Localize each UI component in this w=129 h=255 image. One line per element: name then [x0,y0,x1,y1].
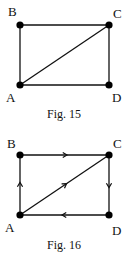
node-D [105,211,112,218]
node-label-A: A [5,220,15,235]
node-label-A: A [6,90,16,105]
node-B [16,21,23,28]
edge-AC [20,155,109,215]
graph-figures: BCADFig. 15BCADFig. 16 [0,0,129,255]
node-label-C: C [113,6,122,21]
node-B [16,151,23,158]
figure-15: BCADFig. 15 [6,4,122,121]
node-label-B: B [8,4,17,19]
node-A [16,211,23,218]
node-C [105,21,112,28]
node-label-C: C [113,136,122,151]
node-label-D: D [112,90,121,105]
node-D [105,81,112,88]
figure-caption: Fig. 16 [47,238,81,252]
node-C [105,151,112,158]
figure-16: BCADFig. 16 [5,136,122,252]
edge-AC [20,25,109,85]
figure-caption: Fig. 15 [47,107,81,121]
node-label-B: B [7,136,16,151]
node-A [16,81,23,88]
node-label-D: D [112,223,121,238]
